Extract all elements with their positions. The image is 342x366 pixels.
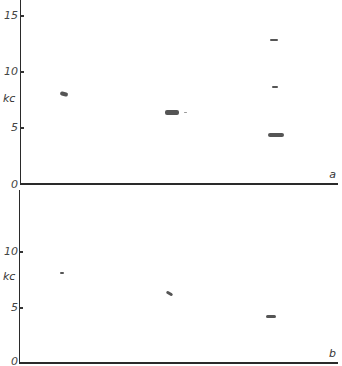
tick-label-5-a: 5 [2,122,18,133]
panel-label-b: b [329,347,336,360]
tick-label-10-a: 10 [2,66,18,77]
data-point [165,110,179,115]
data-point [184,112,187,113]
x-axis-b [19,362,338,364]
tick-15-a [20,15,24,17]
panel-b: 10 kc 5 0 b [0,190,342,366]
tick-label-0-a: 0 [2,179,18,190]
data-point [266,315,276,318]
y-unit-a: kc [3,92,15,105]
tick-label-15-a: 15 [2,10,18,21]
tick-label-5-b: 5 [2,302,18,313]
data-point [270,39,278,41]
data-point [166,290,174,296]
y-axis-a [20,0,21,185]
tick-10-a [20,71,24,73]
y-unit-b: kc [3,270,15,283]
panel-a: 15 10 kc 5 0 a [0,0,342,190]
panel-label-a: a [329,168,336,181]
data-point [268,133,284,137]
data-point [60,91,69,97]
tick-5-a [20,127,24,129]
data-point [272,86,278,88]
data-point [60,272,64,274]
tick-10-b [19,251,23,253]
y-axis-b [19,190,20,364]
tick-label-10-b: 10 [2,246,18,257]
x-axis-a [20,183,338,185]
tick-5-b [19,307,23,309]
tick-label-0-b: 0 [2,356,18,366]
